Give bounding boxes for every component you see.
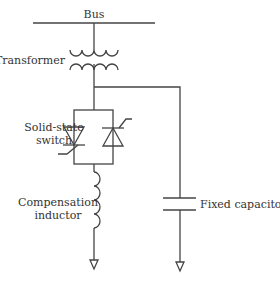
bus-label: Bus (84, 8, 105, 21)
capacitor-icon (163, 198, 196, 210)
capacitor-label: Fixed capacitor (200, 198, 280, 211)
ground-icon (176, 262, 184, 271)
inductor-label-line1: Compensation (18, 196, 98, 209)
switch-label-line1: Solid-state (24, 121, 84, 134)
inductor-label-line2: inductor (34, 209, 82, 222)
switch-label-line2: switch (36, 134, 72, 147)
circuit-diagram: Bus Transformer Solid-state switch Compe… (0, 0, 280, 284)
transformer-label: Transformer (0, 54, 66, 67)
capacitor-branch-wire (94, 87, 180, 198)
ground-icon (90, 260, 98, 269)
